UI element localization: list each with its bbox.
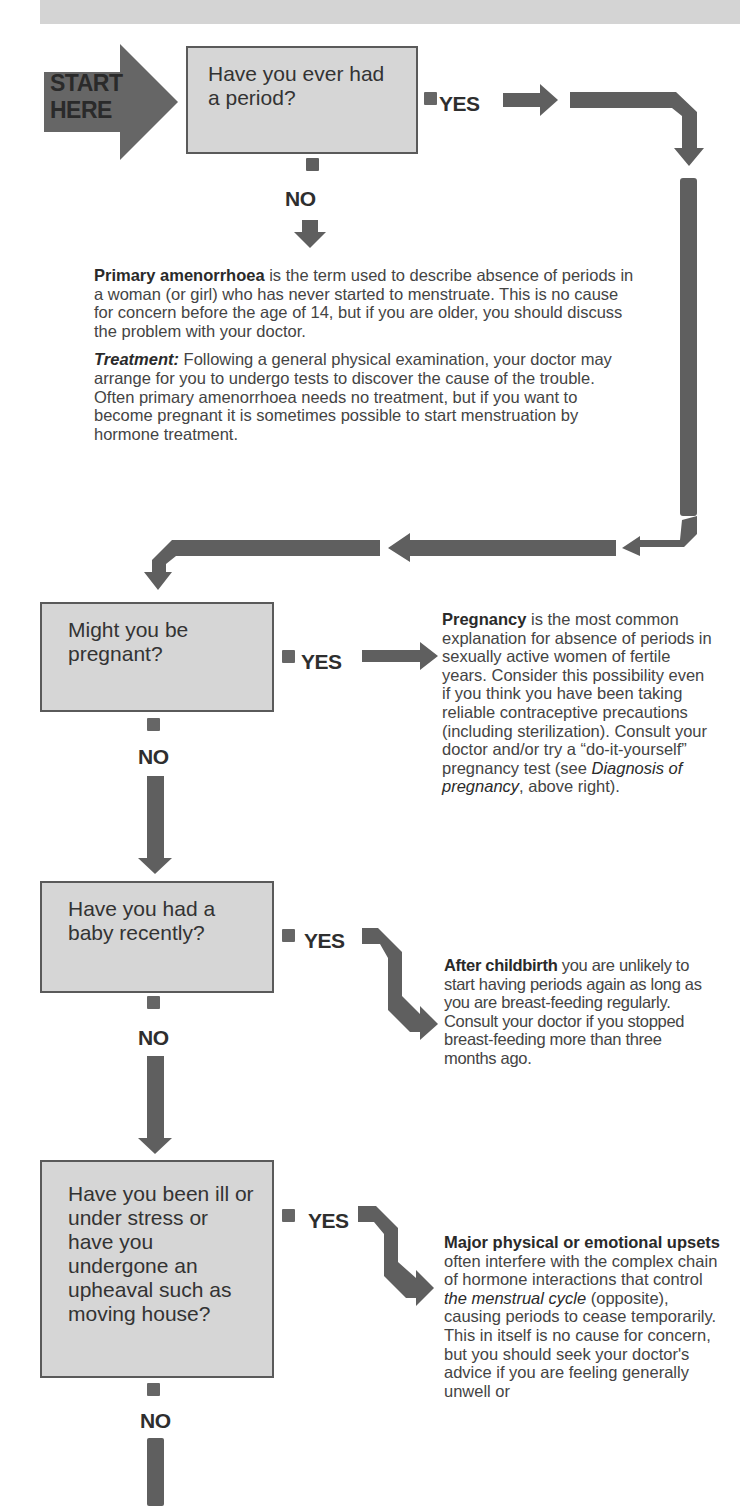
yes-marker-icon	[282, 929, 295, 942]
zigzag-arrow-icon	[362, 928, 438, 1040]
term-heading: After childbirth	[444, 956, 557, 974]
elbow-arrow-icon	[570, 92, 704, 166]
arrow-down-icon	[138, 776, 172, 874]
question-text: Have you been ill or under stress or hav…	[68, 1182, 254, 1325]
elbow-arrow-icon	[622, 516, 697, 556]
connector-vertical	[147, 1438, 164, 1506]
start-line-2: HERE	[50, 97, 122, 124]
question-text: Might you be pregnant?	[68, 618, 188, 665]
answer-tail: , above right).	[519, 777, 620, 795]
yes-label-q1[interactable]: YES	[439, 93, 480, 115]
zigzag-arrow-icon	[358, 1206, 434, 1306]
start-here-label: START HERE	[50, 70, 122, 124]
yes-marker-icon	[282, 650, 295, 663]
treatment-heading: Treatment:	[94, 350, 179, 368]
answer-childbirth: After childbirth you are unlikely to sta…	[444, 956, 716, 1078]
no-label-q1[interactable]: NO	[285, 188, 316, 210]
no-label-q3[interactable]: NO	[138, 1027, 169, 1049]
question-text: Have you had a baby recently?	[68, 897, 215, 944]
connector-vertical	[680, 178, 697, 516]
question-text: Have you ever had a period?	[208, 62, 384, 109]
answer-body: is the most common explanation for absen…	[442, 610, 712, 777]
yes-label-q4[interactable]: YES	[308, 1210, 349, 1232]
no-label-q4[interactable]: NO	[140, 1410, 171, 1432]
arrow-left-icon	[388, 533, 616, 562]
connector-horizontal	[144, 540, 380, 590]
no-marker-icon	[147, 1383, 160, 1396]
connector-stub	[306, 158, 319, 171]
arrow-right-icon	[503, 84, 558, 116]
term-heading: Pregnancy	[442, 610, 526, 628]
question-box-ever-had-period[interactable]: Have you ever had a period?	[186, 46, 418, 154]
yes-label-q2[interactable]: YES	[301, 651, 342, 673]
no-label-q2[interactable]: NO	[138, 746, 169, 768]
term-heading: Major physical or emotional upsets	[444, 1233, 720, 1251]
question-box-might-be-pregnant[interactable]: Might you be pregnant?	[40, 602, 274, 712]
cross-reference-link[interactable]: the menstrual cycle	[444, 1289, 586, 1307]
answer-upsets: Major physical or emotional upsets often…	[444, 1233, 724, 1410]
start-line-1: START	[50, 70, 122, 97]
arrow-right-icon	[362, 642, 438, 670]
arrow-down-icon	[138, 1056, 172, 1154]
answer-pregnancy: Pregnancy is the most common explanation…	[442, 610, 714, 806]
arrow-down-icon	[294, 220, 326, 248]
answer-body: often interfere with the complex chain o…	[444, 1252, 717, 1289]
question-box-ill-or-stress[interactable]: Have you been ill or under stress or hav…	[40, 1160, 274, 1378]
no-marker-icon	[147, 718, 160, 731]
no-marker-icon	[147, 996, 160, 1009]
answer-primary-amenorrhoea: Primary amenorrhoea is the term used to …	[94, 266, 634, 453]
term-heading: Primary amenorrhoea	[94, 266, 265, 284]
question-box-baby-recently[interactable]: Have you had a baby recently?	[40, 881, 274, 993]
yes-label-q3[interactable]: YES	[304, 930, 345, 952]
yes-marker-icon	[424, 92, 437, 105]
yes-marker-icon	[282, 1209, 295, 1222]
